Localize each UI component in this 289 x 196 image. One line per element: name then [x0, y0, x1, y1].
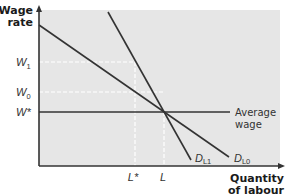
tick-w0: W0 [16, 86, 31, 101]
tick-wstar: W* [16, 106, 31, 118]
labour-demand-chart: Wage rate Quantity of labour W1 W0 W* L*… [0, 0, 289, 196]
x-axis-title-2: of labour [228, 184, 285, 196]
tick-w1: W1 [16, 56, 31, 71]
plot-area [39, 10, 280, 166]
tick-lstar: L* [128, 171, 139, 183]
y-axis-title-2: rate [7, 16, 33, 29]
y-axis-arrow-icon [36, 5, 42, 12]
x-axis-arrow-icon [278, 163, 285, 169]
tick-l: L [160, 171, 166, 183]
average-wage-label-2: wage [235, 119, 262, 130]
average-wage-label: Average [235, 107, 276, 118]
